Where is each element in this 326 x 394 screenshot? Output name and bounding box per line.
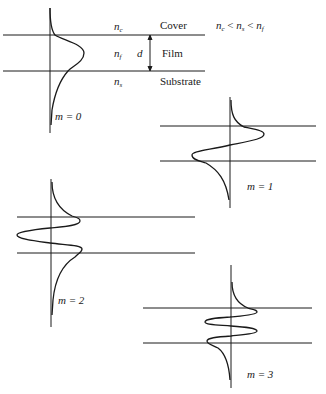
substrate-layer-name: Substrate [160, 75, 201, 87]
cond-operator: < [225, 19, 237, 31]
arrowhead-bottom [148, 66, 152, 71]
substrate-index-label: ns [114, 75, 122, 91]
film-layer-name: Film [162, 47, 183, 59]
thickness-label: d [137, 47, 143, 59]
film-index-label: nf [114, 47, 121, 63]
index-subscript: c [120, 26, 123, 34]
mode-0-field-profile [50, 8, 84, 125]
mode-profiles-diagram [0, 0, 326, 394]
mode-0-label: m = 0 [55, 110, 81, 122]
index-condition: nc < ns < nf [216, 19, 264, 35]
mode-1-diagram [160, 97, 316, 208]
cond-operator: < [245, 19, 257, 31]
mode-3-diagram [143, 265, 312, 388]
arrowhead-top [148, 35, 152, 40]
mode-1-label: m = 1 [247, 180, 273, 192]
mode-2-diagram [17, 179, 195, 327]
index-subscript: f [120, 53, 122, 61]
cover-index-label: nc [114, 20, 123, 36]
cond-subscript: f [262, 25, 264, 33]
cover-layer-name: Cover [160, 19, 187, 31]
index-subscript: s [120, 81, 123, 89]
mode-3-label: m = 3 [247, 368, 273, 380]
mode-2-label: m = 2 [58, 294, 84, 306]
